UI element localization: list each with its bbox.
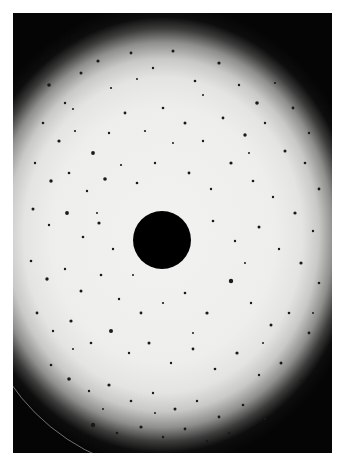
speckle <box>65 211 69 215</box>
speckle <box>299 261 302 264</box>
speckle <box>218 416 221 419</box>
speckle <box>64 268 66 270</box>
speckle <box>312 312 314 314</box>
speckle <box>222 117 225 120</box>
speckle <box>110 87 112 89</box>
speckle <box>244 262 246 264</box>
speckle <box>188 172 191 175</box>
speckle <box>152 392 154 394</box>
speckle <box>234 240 236 242</box>
speckle <box>32 208 35 211</box>
speckle <box>242 404 245 407</box>
speckle <box>210 188 212 190</box>
speckle <box>192 348 195 351</box>
speckle <box>154 162 156 164</box>
speckle <box>264 122 266 124</box>
speckle <box>184 428 187 431</box>
speckle <box>136 78 138 80</box>
image-canvas <box>0 0 343 468</box>
speckle <box>154 412 156 414</box>
speckle <box>205 311 208 314</box>
speckle <box>36 312 39 315</box>
speckle <box>108 132 110 134</box>
speckle <box>318 282 321 285</box>
speckle <box>252 180 255 183</box>
speckle <box>248 152 250 154</box>
speckle <box>174 408 177 411</box>
speckle <box>72 348 74 350</box>
speckle <box>30 260 33 263</box>
speckle <box>130 52 133 55</box>
speckle <box>292 107 295 110</box>
speckle <box>74 130 76 132</box>
speckle <box>80 72 83 75</box>
speckle <box>102 408 104 410</box>
speckle <box>264 418 266 420</box>
speckle <box>235 351 238 354</box>
speckle <box>132 274 134 276</box>
speckle <box>86 190 88 192</box>
speckle <box>288 312 291 315</box>
speckle <box>238 84 240 86</box>
speckle <box>136 182 139 185</box>
speckle <box>162 107 165 110</box>
speckle <box>112 248 114 250</box>
speckle <box>96 59 99 62</box>
speckle <box>300 380 302 382</box>
speckle <box>184 122 187 125</box>
speckle <box>196 400 198 402</box>
speckle <box>130 400 133 403</box>
speckle <box>229 279 233 283</box>
speckle <box>258 226 261 229</box>
speckle <box>109 329 113 333</box>
speckle <box>293 211 296 214</box>
speckle <box>34 162 36 164</box>
speckle <box>140 312 143 315</box>
speckle <box>103 177 107 181</box>
speckle <box>162 302 164 304</box>
speckle <box>194 80 197 83</box>
speckle <box>308 332 311 335</box>
speckle <box>91 151 95 155</box>
speckle <box>172 142 174 144</box>
speckle <box>304 162 307 165</box>
speckle <box>42 122 45 125</box>
speckle <box>128 352 130 354</box>
speckle <box>69 319 72 322</box>
speckle <box>82 236 85 239</box>
speckle <box>272 196 274 198</box>
microscope-field-frame <box>13 13 332 453</box>
speckle <box>47 83 51 87</box>
speckle <box>139 425 142 428</box>
speckle <box>278 248 280 250</box>
speckle <box>202 140 204 142</box>
speckle <box>91 423 95 427</box>
speckle <box>217 61 220 64</box>
speckle <box>284 150 287 153</box>
speckle <box>152 67 154 69</box>
speckle <box>206 440 208 442</box>
speckle <box>64 102 66 104</box>
speckle <box>280 362 283 365</box>
speckle <box>184 292 187 295</box>
speckle <box>116 432 119 435</box>
speckle <box>49 179 52 182</box>
speckle <box>118 298 120 300</box>
speckle <box>107 383 110 386</box>
speckle <box>192 332 194 334</box>
speckle <box>318 188 321 191</box>
speckle <box>162 436 164 438</box>
speckle <box>270 324 273 327</box>
speckle <box>212 220 215 223</box>
speckle <box>282 400 285 403</box>
speckle <box>312 230 314 232</box>
speckle <box>50 364 53 367</box>
speckle <box>100 274 103 277</box>
speckle <box>120 164 122 166</box>
speckle <box>308 132 310 134</box>
speckle <box>96 212 98 214</box>
speckle <box>68 172 71 175</box>
speckle <box>172 50 175 53</box>
speckle <box>67 377 71 381</box>
speckle <box>274 82 276 84</box>
